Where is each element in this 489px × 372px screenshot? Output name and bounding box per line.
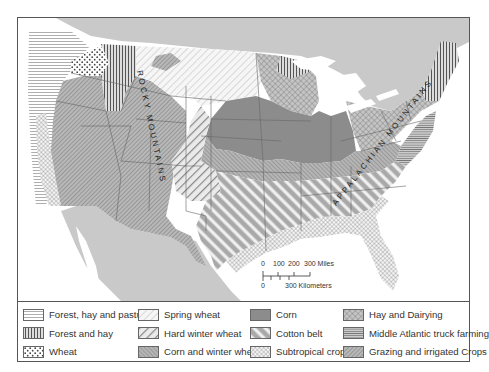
legend-item-forest-hay: Forest and hay	[23, 325, 150, 342]
legend-item-grazing-irrigated: Grazing and irrigated Crops	[343, 343, 489, 360]
legend-item-hay-dairying: Hay and Dairying	[343, 306, 489, 323]
dense-back-diagonal-swatch-icon	[343, 346, 364, 358]
dense-diagonal-swatch-icon	[138, 346, 159, 358]
vertical-lines-swatch-icon	[23, 327, 44, 339]
legend-label: Corn	[276, 309, 297, 320]
legend-item-spring-wheat: Spring wheat	[138, 306, 260, 323]
legend-item-middle-atlantic-truck: Middle Atlantic truck farming	[343, 325, 489, 342]
horizontal-dense-swatch-icon	[343, 327, 364, 339]
legend-item-corn-winter-wheat: Corn and winter wheat	[138, 343, 260, 360]
legend-label: Forest and hay	[49, 328, 113, 339]
legend-label: Middle Atlantic truck farming	[369, 328, 489, 339]
legend-label: Subtropical crops	[276, 346, 350, 357]
legend-label: Cotton belt	[276, 328, 322, 339]
scale-miles-100: 100	[273, 260, 285, 267]
legend-column-1: Forest, hay and pasture Forest and hay W…	[23, 306, 150, 362]
light-diagonal-swatch-icon	[138, 309, 159, 321]
agricultural-regions-map: ROCKY MOUNTAINS APPALACHIAN MOUNTAINS	[18, 18, 470, 301]
solid-gray-swatch-icon	[250, 309, 271, 321]
map-frame: ROCKY MOUNTAINS APPALACHIAN MOUNTAINS 0 …	[17, 17, 470, 301]
legend-label: Corn and winter wheat	[164, 346, 260, 357]
scale-ruler	[262, 270, 332, 282]
legend-label: Grazing and irrigated Crops	[369, 346, 487, 357]
wide-diagonal-swatch-icon	[138, 327, 159, 339]
scale-miles-200: 200	[288, 260, 300, 267]
scale-miles-300: 300 Miles	[304, 260, 334, 267]
dots-swatch-icon	[23, 346, 44, 358]
legend-column-4: Hay and Dairying Middle Atlantic truck f…	[343, 306, 489, 362]
legend-item-subtropical-crops: Subtropical crops	[250, 343, 350, 360]
crosshatch-light-swatch-icon	[250, 346, 271, 358]
crosshatch-swatch-icon	[343, 309, 364, 321]
legend-item-forest-hay-pasture: Forest, hay and pasture	[23, 306, 150, 323]
scale-bar: 0 100 200 300 Miles 0 300 Kilometers	[258, 256, 368, 296]
legend-item-cotton-belt: Cotton belt	[250, 325, 350, 342]
legend-item-wheat: Wheat	[23, 343, 150, 360]
scale-miles-0: 0	[261, 260, 265, 267]
legend-label: Hard winter wheat	[164, 328, 241, 339]
legend-column-3: Corn Cotton belt Subtropical crops	[250, 306, 350, 362]
legend: Forest, hay and pasture Forest and hay W…	[17, 301, 470, 362]
legend-label: Hay and Dairying	[369, 309, 443, 320]
horizontal-lines-swatch-icon	[23, 309, 44, 321]
legend-item-corn: Corn	[250, 306, 350, 323]
legend-column-2: Spring wheat Hard winter wheat Corn and …	[138, 306, 260, 362]
legend-label: Wheat	[49, 346, 77, 357]
wide-stripes-swatch-icon	[250, 327, 271, 339]
legend-label: Forest, hay and pasture	[49, 309, 150, 320]
legend-label: Spring wheat	[164, 309, 220, 320]
scale-km-0: 0	[261, 282, 265, 289]
scale-km-300: 300 Kilometers	[285, 282, 332, 289]
legend-item-hard-winter-wheat: Hard winter wheat	[138, 325, 260, 342]
